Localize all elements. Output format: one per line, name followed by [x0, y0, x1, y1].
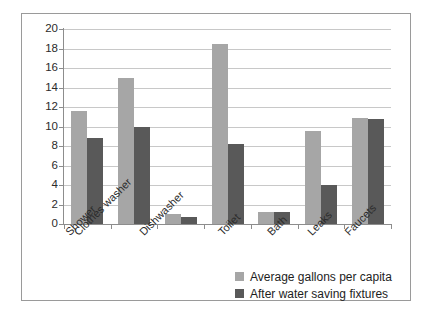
y-axis-tick-16	[59, 68, 64, 69]
y-axis-tick-6	[59, 166, 64, 167]
y-axis-tick-8	[59, 146, 64, 147]
y-axis-tick-label: 16	[28, 62, 58, 74]
bar-pair	[251, 29, 298, 224]
y-axis-tick-label: 14	[28, 82, 58, 94]
bar-group	[344, 29, 391, 224]
y-axis-tick-10	[59, 127, 64, 128]
y-axis-tick-label: 6	[28, 160, 58, 172]
y-axis-tick-label: 8	[28, 140, 58, 152]
y-axis-tick-label: 4	[28, 179, 58, 191]
bar-pair	[298, 29, 345, 224]
light-gray-swatch	[235, 272, 244, 281]
y-axis-tick-label: 2	[28, 199, 58, 211]
bar-group	[298, 29, 345, 224]
bar	[305, 131, 321, 224]
bar-pair	[64, 29, 111, 224]
bar-group	[64, 29, 111, 224]
category-tick	[391, 224, 392, 229]
bar-chart: 20181614121086420 ShowerClothes washerDi…	[0, 0, 431, 328]
bar	[134, 127, 150, 225]
y-axis-tick-20	[59, 29, 64, 30]
y-axis-tick-label: 20	[28, 23, 58, 35]
y-axis-tick-label: 10	[28, 121, 58, 133]
legend-label: Average gallons per capita	[250, 271, 392, 283]
category-tick	[251, 224, 252, 229]
legend-label: After water saving fixtures	[250, 288, 388, 300]
y-axis-tick-label: 18	[28, 43, 58, 55]
y-axis-tick-12	[59, 107, 64, 108]
chart-legend: Average gallons per capitaAfter water sa…	[235, 268, 392, 302]
legend-item[interactable]: Average gallons per capita	[235, 268, 392, 285]
bar	[118, 78, 134, 224]
y-axis-tick-label: 0	[28, 218, 58, 230]
bar-pair	[344, 29, 391, 224]
bar	[181, 217, 197, 224]
bar-pair	[204, 29, 251, 224]
y-axis-tick-label: 12	[28, 101, 58, 113]
category-tick	[111, 224, 112, 229]
dark-gray-swatch	[235, 289, 244, 298]
bar-group	[204, 29, 251, 224]
y-axis-tick-2	[59, 205, 64, 206]
bar	[212, 44, 228, 224]
bar-group	[251, 29, 298, 224]
y-axis-tick-14	[59, 88, 64, 89]
y-axis-tick-labels: 20181614121086420	[25, 29, 58, 224]
y-axis-tick-4	[59, 185, 64, 186]
legend-item[interactable]: After water saving fixtures	[235, 285, 392, 302]
y-axis-tick-18	[59, 49, 64, 50]
category-tick	[204, 224, 205, 229]
y-axis-tick-0	[59, 224, 64, 225]
category-tick	[298, 224, 299, 229]
